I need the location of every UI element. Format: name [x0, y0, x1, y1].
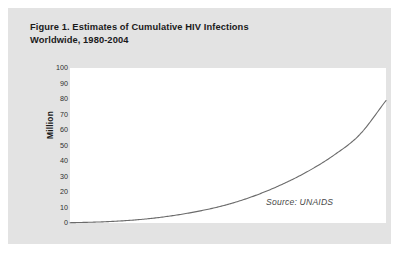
figure-panel: Figure 1. Estimates of Cumulative HIV In… [8, 8, 391, 244]
y-tick-label: 90 [44, 80, 68, 88]
figure-title-line-2: Worldwide, 1980-2004 [30, 34, 360, 47]
y-tick-label: 60 [44, 126, 68, 134]
y-tick-label: 20 [44, 188, 68, 196]
series-line-chart [70, 68, 386, 223]
y-axis-tick-labels: 100 90 80 70 60 50 40 30 20 10 0 [44, 62, 68, 228]
y-tick-label: 40 [44, 157, 68, 165]
series-line-cumulative-hiv-infections [70, 101, 386, 223]
y-tick-label: 50 [44, 142, 68, 150]
figure-title: Figure 1. Estimates of Cumulative HIV In… [30, 21, 360, 46]
figure-root: Figure 1. Estimates of Cumulative HIV In… [0, 0, 399, 258]
y-tick-label: 70 [44, 111, 68, 119]
y-tick-label: 10 [44, 204, 68, 212]
plot-area [70, 68, 386, 223]
y-tick-label: 30 [44, 173, 68, 181]
y-tick-label: 80 [44, 95, 68, 103]
y-tick-label: 0 [44, 219, 68, 227]
source-annotation: Source: UNAIDS [266, 197, 333, 207]
y-tick-label: 100 [44, 64, 68, 72]
figure-title-line-1: Figure 1. Estimates of Cumulative HIV In… [30, 21, 360, 34]
